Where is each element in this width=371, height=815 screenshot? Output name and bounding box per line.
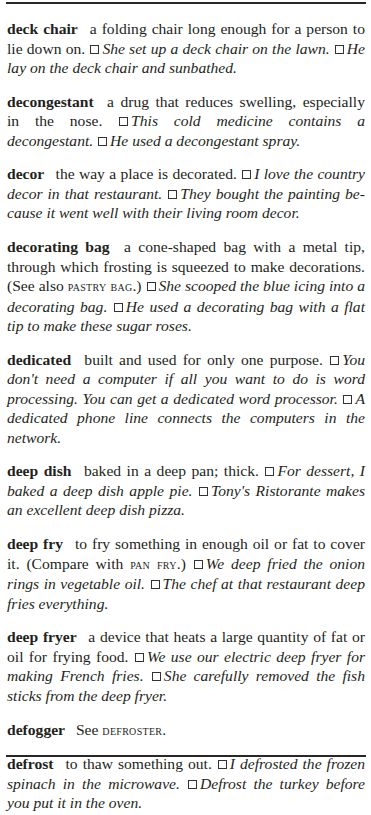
example-box-icon bbox=[265, 467, 274, 476]
bottom-rule bbox=[6, 755, 366, 757]
headword: decorating bag bbox=[7, 238, 110, 255]
example-box-icon bbox=[114, 303, 123, 312]
example-box-icon bbox=[90, 45, 99, 54]
dictionary-entry: dedicated built and used for only one pu… bbox=[7, 350, 365, 448]
definition: to thaw something out. bbox=[66, 755, 212, 772]
definition-punctuation: .) bbox=[132, 277, 141, 294]
dictionary-entry: deck chair a folding chair long enough f… bbox=[7, 19, 365, 78]
dictionary-entry: defogger See DEFROSTER. bbox=[7, 720, 365, 741]
example-box-icon bbox=[330, 356, 339, 365]
definition: the way a place is decorated. bbox=[56, 165, 237, 182]
headword: defrost bbox=[7, 755, 53, 772]
dictionary-entry: decongestant a drug that reduces swellin… bbox=[7, 92, 365, 151]
headword: deck chair bbox=[7, 20, 78, 37]
headword: dedicated bbox=[7, 351, 71, 368]
example-box-icon bbox=[218, 760, 227, 769]
example-sentence: He used a decongestant spray. bbox=[110, 132, 300, 149]
definition-punctuation: . bbox=[162, 721, 166, 738]
dictionary-entry: deep dish baked in a deep pan; thick. Fo… bbox=[7, 461, 365, 520]
dictionary-entry: deep fryer a device that heats a large q… bbox=[7, 627, 365, 705]
definition: built and used for only one purpose. bbox=[84, 351, 323, 368]
headword: decor bbox=[7, 165, 44, 182]
example-box-icon bbox=[98, 137, 107, 146]
example-box-icon bbox=[343, 395, 352, 404]
dictionary-entry: deep fry to fry something in enough oil … bbox=[7, 534, 365, 613]
example-box-icon bbox=[147, 282, 156, 291]
cross-reference: PAN FRY bbox=[130, 556, 177, 572]
example-box-icon bbox=[194, 560, 203, 569]
definition-punctuation: .) bbox=[177, 555, 186, 572]
top-rule bbox=[6, 2, 366, 4]
example-box-icon bbox=[152, 672, 161, 681]
example-box-icon bbox=[335, 45, 344, 54]
example-box-icon bbox=[242, 170, 251, 179]
dictionary-page: deck chair a folding chair long enough f… bbox=[7, 19, 365, 815]
headword: deep fryer bbox=[7, 628, 77, 645]
dictionary-entry: decor the way a place is decorated. I lo… bbox=[7, 164, 365, 223]
example-box-icon bbox=[168, 190, 177, 199]
dictionary-entry: defrost to thaw something out. I defrost… bbox=[7, 754, 365, 813]
dictionary-entry: decorating bag a cone-shaped bag with a … bbox=[7, 237, 365, 336]
headword: deep fry bbox=[7, 535, 63, 552]
example-sentence: She set up a deck chair on the lawn. bbox=[102, 40, 329, 57]
definition: baked in a deep pan; thick. bbox=[84, 462, 259, 479]
example-box-icon bbox=[135, 653, 144, 662]
definition: See bbox=[76, 721, 102, 738]
cross-reference: DEFROSTER bbox=[102, 722, 162, 738]
example-box-icon bbox=[119, 117, 128, 126]
example-box-icon bbox=[151, 580, 160, 589]
cross-reference: PASTRY BAG bbox=[68, 278, 133, 294]
example-box-icon bbox=[188, 780, 197, 789]
headword: defogger bbox=[7, 721, 65, 738]
headword: deep dish bbox=[7, 462, 71, 479]
headword: decongestant bbox=[7, 93, 94, 110]
example-box-icon bbox=[199, 487, 208, 496]
